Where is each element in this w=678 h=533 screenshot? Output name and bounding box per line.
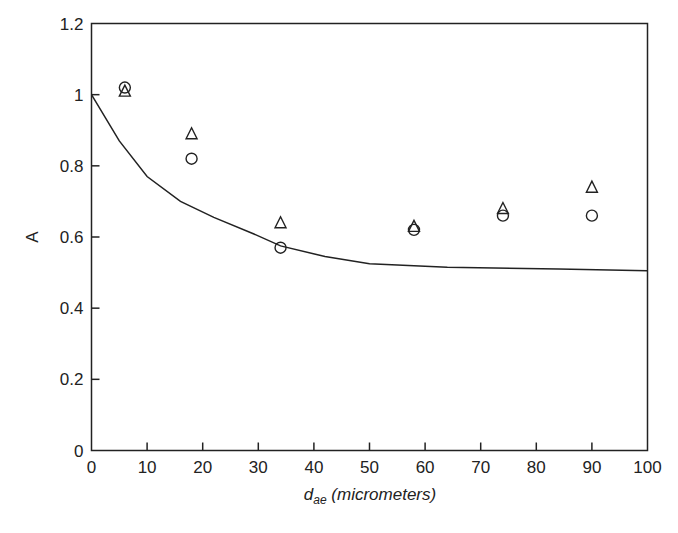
y-axis-ticks: 00.20.40.60.811.2 bbox=[60, 15, 100, 461]
x-tick-label: 80 bbox=[527, 458, 546, 477]
y-tick-label: 0.4 bbox=[60, 299, 84, 318]
x-tick-label: 0 bbox=[87, 458, 96, 477]
circle-marker bbox=[275, 242, 286, 253]
x-tick-label: 90 bbox=[582, 458, 601, 477]
circle-marker bbox=[497, 210, 508, 221]
y-tick-label: 0.6 bbox=[60, 228, 84, 247]
triangle-marker bbox=[275, 217, 286, 228]
y-tick-label: 1.2 bbox=[60, 15, 84, 34]
y-tick-label: 1 bbox=[74, 86, 83, 105]
model-curve bbox=[92, 95, 648, 271]
x-axis-ticks: 0102030405060708090100 bbox=[87, 443, 662, 477]
x-tick-label: 60 bbox=[416, 458, 435, 477]
data-markers bbox=[119, 82, 597, 253]
circle-marker bbox=[408, 224, 419, 235]
y-axis-label: A bbox=[23, 231, 42, 243]
x-tick-label: 70 bbox=[471, 458, 490, 477]
x-tick-label: 20 bbox=[193, 458, 212, 477]
x-tick-label: 40 bbox=[304, 458, 323, 477]
circle-marker bbox=[186, 153, 197, 164]
chart: 0102030405060708090100 00.20.40.60.811.2… bbox=[0, 0, 678, 533]
y-tick-label: 0.8 bbox=[60, 157, 84, 176]
x-tick-label: 30 bbox=[249, 458, 268, 477]
y-tick-label: 0.2 bbox=[60, 370, 84, 389]
x-axis-label: dae (micrometers) bbox=[304, 485, 436, 507]
x-tick-label: 10 bbox=[138, 458, 157, 477]
triangle-marker bbox=[586, 181, 597, 192]
x-tick-label: 50 bbox=[360, 458, 379, 477]
y-tick-label: 0 bbox=[74, 442, 83, 461]
circle-marker bbox=[586, 210, 597, 221]
x-tick-label: 100 bbox=[633, 458, 661, 477]
plot-frame bbox=[92, 24, 648, 451]
triangle-marker bbox=[186, 128, 197, 139]
